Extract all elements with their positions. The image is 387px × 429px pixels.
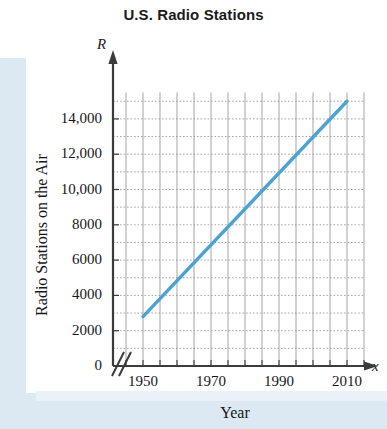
vertical-gridlines — [126, 92, 364, 366]
axis-break-symbol — [112, 352, 131, 376]
horizontal-gridlines — [113, 101, 364, 348]
plot-canvas — [0, 0, 387, 429]
chart-figure: U.S. Radio Stations R x Radio Stations o… — [0, 0, 387, 429]
